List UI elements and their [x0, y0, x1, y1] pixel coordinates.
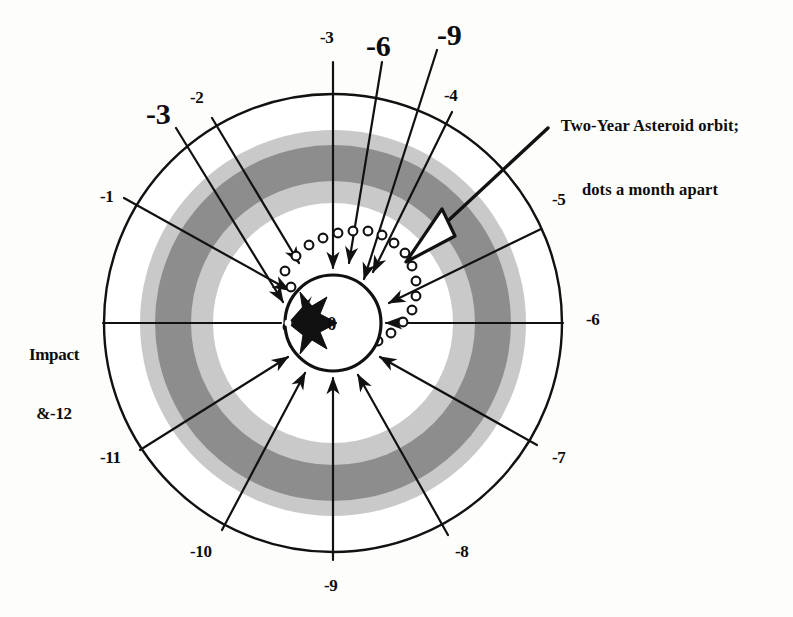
orbit-dot [334, 229, 343, 238]
spoke-label-minus-1: -1 [100, 187, 114, 206]
spoke-label-minus-9-bottom: -9 [324, 576, 338, 595]
spoke-label-minus-2: -2 [190, 88, 204, 107]
spoke-label-minus-8: -8 [455, 542, 469, 561]
orbit-dot [408, 262, 417, 271]
orbit-callout-line2: dots a month apart [524, 179, 776, 200]
spoke-label-minus-3-large: -3 [146, 97, 170, 131]
spoke-label-minus-6-large: -6 [366, 29, 390, 63]
orbit-dot [387, 329, 396, 338]
orbit-dot [401, 249, 410, 258]
orbit-callout-label: Two-Year Asteroid orbit; dots a month ap… [524, 72, 776, 244]
orbit-dot [349, 227, 358, 236]
orbit-dot [292, 252, 301, 261]
diagram-canvas: -1 -2 -3 -4 -5 -6 -7 -8 -9 -10 -11 -3 -6… [0, 0, 793, 617]
orbit-dot [281, 267, 290, 276]
spoke-label-minus-10: -10 [190, 542, 212, 561]
orbit-dot [319, 234, 328, 243]
orbit-dot [408, 306, 417, 315]
orbit-dot [287, 283, 296, 292]
impact-label: Impact &-12 [6, 306, 102, 462]
spoke-label-minus-9-large: -9 [437, 18, 461, 52]
center-body-label: 0 [327, 313, 336, 334]
orbit-dot [412, 277, 421, 286]
spoke-label-minus-3-top: -3 [320, 28, 334, 47]
orbit-dot [364, 227, 373, 236]
orbit-dot [390, 239, 399, 248]
orbit-dot [412, 292, 421, 301]
spoke-label-minus-7: -7 [552, 448, 566, 467]
spoke-label-minus-4: -4 [444, 86, 458, 105]
orbit-callout-line1: Two-Year Asteroid orbit; [524, 115, 776, 136]
impact-label-line1: Impact [6, 345, 102, 365]
orbit-dot [399, 318, 408, 327]
impact-label-line2: &-12 [6, 404, 102, 424]
spoke-label-minus-6-right: -6 [586, 310, 600, 329]
orbit-dot [305, 241, 314, 250]
orbit-dot [378, 231, 387, 240]
spoke-label-minus-11: -11 [100, 448, 121, 467]
